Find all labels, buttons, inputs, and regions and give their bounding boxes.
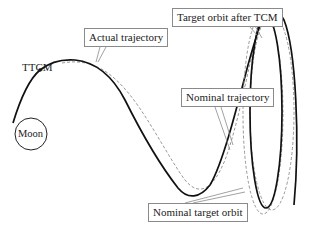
actual-orbit-outer-arc: [264, 12, 297, 205]
actual-trajectory-callout: Actual trajectory: [84, 28, 168, 47]
nominal-target-orbit-inner: [250, 14, 294, 210]
callout-leaders: [96, 26, 262, 203]
target-orbit-after-tcm: [250, 16, 282, 208]
nominal-target-orbit-callout: Nominal target orbit: [148, 203, 248, 222]
ttcm-label: TTCM: [22, 61, 53, 73]
nominal-trajectory-callout: Nominal trajectory: [181, 88, 274, 107]
moon-label: Moon: [18, 128, 43, 140]
target-orbit-after-tcm-callout: Target orbit after TCM: [172, 8, 283, 27]
